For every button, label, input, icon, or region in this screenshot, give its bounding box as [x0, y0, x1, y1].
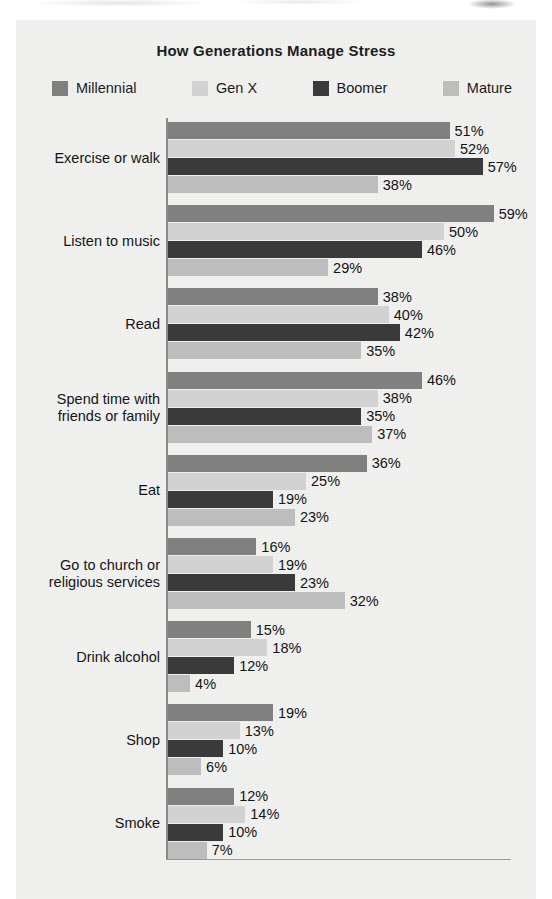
- bar-value-label: 25%: [311, 473, 340, 489]
- category-label-line: Shop: [16, 732, 160, 749]
- bar-row: 37%: [168, 426, 456, 443]
- category-label: Eat: [16, 482, 160, 499]
- bar-millennial: [168, 621, 251, 638]
- legend-label: Gen X: [216, 80, 257, 96]
- category-label: Read: [16, 316, 160, 333]
- bar-boomer: [168, 740, 223, 757]
- category-label-line: Spend time with: [16, 391, 160, 408]
- bar-mature: [168, 675, 190, 692]
- bar-value-label: 23%: [300, 575, 329, 591]
- bar-value-label: 12%: [239, 658, 268, 674]
- bar-value-label: 50%: [449, 224, 478, 240]
- bar-boomer: [168, 491, 273, 508]
- bar-boomer: [168, 408, 361, 425]
- bar-value-label: 19%: [278, 705, 307, 721]
- bar-row: 19%: [168, 491, 401, 508]
- bar-millennial: [168, 704, 273, 721]
- category-label-line: Smoke: [16, 815, 160, 832]
- bar-mature: [168, 592, 345, 609]
- bar-gen-x: [168, 556, 273, 573]
- bar-row: 35%: [168, 342, 434, 359]
- bar-gen-x: [168, 639, 267, 656]
- bar-value-label: 52%: [460, 141, 489, 157]
- bar-value-label: 35%: [366, 343, 395, 359]
- bar-set: 46%38%35%37%: [168, 372, 456, 444]
- bar-set: 19%13%10%6%: [168, 704, 307, 776]
- bar-row: 6%: [168, 758, 307, 775]
- bar-value-label: 6%: [206, 759, 227, 775]
- bar-value-label: 19%: [278, 557, 307, 573]
- bar-millennial: [168, 205, 494, 222]
- bar-row: 51%: [168, 122, 517, 139]
- bar-set: 15%18%12%4%: [168, 621, 301, 693]
- category-label: Listen to music: [16, 233, 160, 250]
- bar-gen-x: [168, 306, 389, 323]
- bar-value-label: 13%: [245, 723, 274, 739]
- bar-row: 36%: [168, 455, 401, 472]
- bar-value-label: 32%: [350, 593, 379, 609]
- bar-row: 52%: [168, 140, 517, 157]
- bar-gen-x: [168, 473, 306, 490]
- bar-gen-x: [168, 722, 240, 739]
- bar-row: 23%: [168, 509, 401, 526]
- bar-row: 16%: [168, 538, 379, 555]
- bar-millennial: [168, 538, 256, 555]
- bar-row: 4%: [168, 675, 301, 692]
- bar-row: 42%: [168, 324, 434, 341]
- bar-millennial: [168, 455, 367, 472]
- bar-millennial: [168, 122, 450, 139]
- bar-row: 13%: [168, 722, 307, 739]
- bar-row: 38%: [168, 176, 517, 193]
- legend-item-gen-x: Gen X: [192, 80, 257, 96]
- category-label-line: Read: [16, 316, 160, 333]
- bar-boomer: [168, 324, 400, 341]
- plot-area: Exercise or walk51%52%57%38%Listen to mu…: [16, 118, 536, 878]
- bar-set: 36%25%19%23%: [168, 455, 401, 527]
- bar-set: 38%40%42%35%: [168, 288, 434, 360]
- bar-row: 38%: [168, 288, 434, 305]
- bar-mature: [168, 342, 361, 359]
- bar-value-label: 46%: [427, 242, 456, 258]
- bar-row: 15%: [168, 621, 301, 638]
- bar-row: 23%: [168, 574, 379, 591]
- legend-label: Boomer: [337, 80, 388, 96]
- bar-row: 19%: [168, 556, 379, 573]
- legend-label: Mature: [467, 80, 512, 96]
- legend-swatch-icon: [192, 81, 208, 96]
- category-label: Smoke: [16, 815, 160, 832]
- category-label: Go to church orreligious services: [16, 557, 160, 591]
- bar-boomer: [168, 574, 295, 591]
- bar-row: 59%: [168, 205, 528, 222]
- bar-set: 16%19%23%32%: [168, 538, 379, 610]
- legend-item-millennial: Millennial: [52, 80, 136, 96]
- bar-row: 7%: [168, 842, 279, 859]
- bar-boomer: [168, 158, 483, 175]
- bar-row: 19%: [168, 704, 307, 721]
- bar-value-label: 59%: [499, 206, 528, 222]
- bar-millennial: [168, 372, 422, 389]
- bar-value-label: 7%: [212, 842, 233, 858]
- category-label-line: religious services: [16, 574, 160, 591]
- bar-value-label: 14%: [250, 806, 279, 822]
- chart-title: How Generations Manage Stress: [16, 42, 536, 59]
- bar-mature: [168, 176, 378, 193]
- bar-gen-x: [168, 390, 378, 407]
- bar-value-label: 51%: [455, 123, 484, 139]
- bar-value-label: 37%: [377, 426, 406, 442]
- bar-value-label: 19%: [278, 491, 307, 507]
- category-label-line: Go to church or: [16, 557, 160, 574]
- bar-mature: [168, 758, 201, 775]
- bar-row: 12%: [168, 788, 279, 805]
- category-label-line: Drink alcohol: [16, 649, 160, 666]
- bar-row: 32%: [168, 592, 379, 609]
- bar-row: 12%: [168, 657, 301, 674]
- category-label: Exercise or walk: [16, 150, 160, 167]
- category-label-line: Eat: [16, 482, 160, 499]
- bar-row: 57%: [168, 158, 517, 175]
- legend-swatch-icon: [443, 81, 459, 96]
- legend-item-mature: Mature: [443, 80, 512, 96]
- bar-value-label: 38%: [383, 289, 412, 305]
- category-label-line: friends or family: [16, 408, 160, 425]
- bar-mature: [168, 842, 207, 859]
- bar-value-label: 42%: [405, 325, 434, 341]
